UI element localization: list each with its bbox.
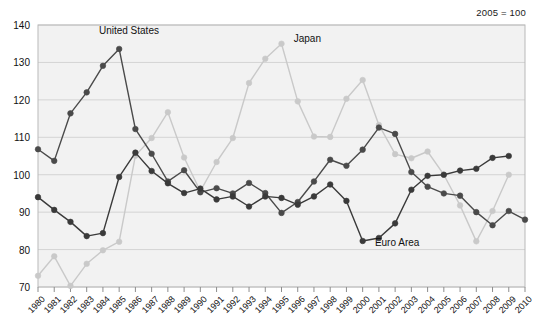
data-point [506,153,512,159]
data-point [457,193,463,199]
y-tick-label-140: 140 [4,20,30,31]
series-annotation-united-states: United States [99,25,159,36]
data-point [344,96,350,102]
data-point [311,134,317,140]
series-annotation-japan: Japan [294,33,321,44]
data-point [506,208,512,214]
data-point [262,194,268,200]
data-point [214,185,220,191]
data-point [35,194,41,200]
data-point [68,111,74,117]
data-point [214,159,220,165]
data-point [409,155,415,161]
y-tick-label-80: 80 [4,244,30,255]
data-point [181,190,187,196]
data-point [344,163,350,169]
data-point [149,168,155,174]
data-point [474,209,480,215]
data-point [198,186,204,192]
data-point [295,99,301,105]
data-point [35,273,41,279]
data-point [360,147,366,153]
data-point [100,230,106,236]
data-point [246,80,252,86]
data-point [230,194,236,200]
data-point [68,283,74,289]
data-point [116,174,122,180]
data-point [181,155,187,161]
data-point [409,187,415,193]
data-point [262,56,268,62]
data-point [360,238,366,244]
data-point [149,135,155,141]
data-point [84,233,90,239]
data-point [279,41,285,47]
data-point [425,149,431,155]
data-point [441,191,447,197]
data-point [165,181,171,187]
chart-container: 2005 = 100 140130120110100908070 1980198… [0,0,544,332]
data-point [360,77,366,83]
data-point [84,90,90,96]
data-point [425,173,431,179]
data-point [165,109,171,115]
series-annotation-euro-area: Euro Area [375,237,419,248]
data-point [279,210,285,216]
data-point [51,158,57,164]
data-point [246,180,252,186]
data-point [522,217,528,223]
data-point [490,222,496,228]
data-point [84,261,90,267]
data-point [327,157,333,163]
y-tick-label-100: 100 [4,169,30,180]
data-point [474,166,480,172]
data-point [295,202,301,208]
y-tick-label-70: 70 [4,282,30,293]
data-point [181,167,187,173]
y-tick-label-130: 130 [4,57,30,68]
plot-background [38,25,525,287]
y-tick-label-90: 90 [4,207,30,218]
data-point [344,198,350,204]
data-point [409,169,415,175]
data-point [425,184,431,190]
data-point [100,248,106,254]
data-point [376,125,382,131]
data-point [100,63,106,69]
data-point [149,151,155,157]
data-point [35,146,41,152]
data-point [230,135,236,141]
data-point [392,131,398,137]
data-point [474,239,480,245]
data-point [116,239,122,245]
data-point [327,134,333,140]
data-point [490,208,496,214]
data-point [457,168,463,174]
data-point [116,46,122,52]
data-point [506,172,512,178]
data-point [279,195,285,201]
data-point [392,221,398,227]
data-point [311,194,317,200]
data-point [133,126,139,132]
line-chart-plot [0,0,544,332]
data-point [490,155,496,161]
data-point [133,150,139,156]
data-point [327,182,333,188]
data-point [68,219,74,225]
data-point [441,172,447,178]
data-point [392,151,398,157]
data-point [51,254,57,260]
y-tick-label-110: 110 [4,132,30,143]
y-tick-label-120: 120 [4,94,30,105]
data-point [246,204,252,210]
data-point [311,179,317,185]
data-point [457,203,463,209]
data-point [51,207,57,213]
data-point [214,197,220,203]
